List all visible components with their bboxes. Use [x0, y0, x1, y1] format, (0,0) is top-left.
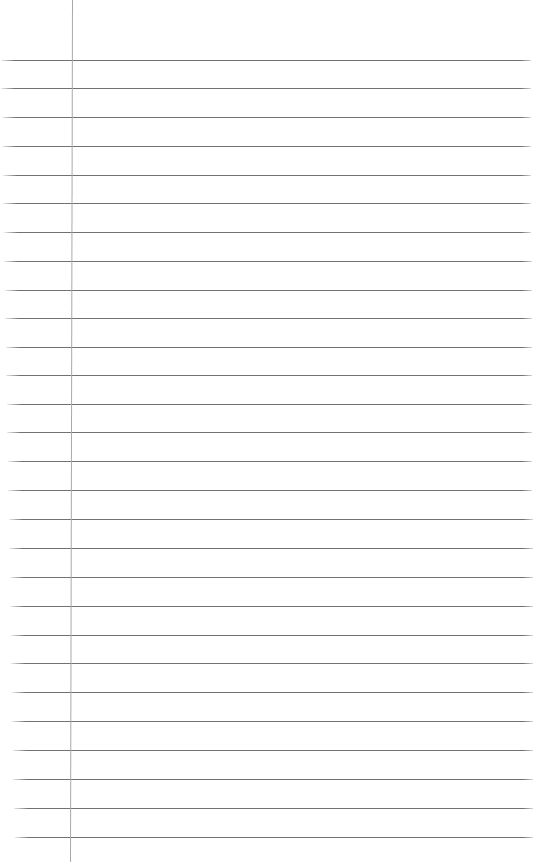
- rule-lines-layer: [0, 0, 536, 866]
- rule-line: [9, 519, 533, 520]
- rule-line: [9, 548, 533, 549]
- rule-line: [13, 779, 533, 780]
- rule-line: [3, 203, 531, 204]
- rule-line: [7, 432, 532, 433]
- rule-line: [5, 290, 532, 291]
- rule-line: [12, 721, 533, 722]
- rule-line: [14, 808, 533, 809]
- rule-line: [2, 146, 531, 147]
- rule-line: [4, 232, 531, 233]
- notebook-page: [0, 0, 536, 866]
- rule-line: [6, 347, 532, 348]
- rule-line: [10, 606, 533, 607]
- rule-line: [5, 318, 532, 319]
- rule-line: [1, 88, 531, 89]
- rule-line: [2, 117, 531, 118]
- rule-line: [4, 261, 532, 262]
- rule-line: [1, 60, 531, 61]
- rule-line: [12, 692, 533, 693]
- rule-line: [15, 837, 533, 838]
- rule-line: [13, 750, 533, 751]
- rule-line: [10, 577, 533, 578]
- rule-line: [7, 404, 532, 405]
- rule-line: [6, 375, 532, 376]
- rule-line: [11, 635, 533, 636]
- rule-line: [11, 663, 533, 664]
- rule-line: [8, 490, 532, 491]
- rule-line: [3, 175, 531, 176]
- rule-line: [8, 461, 532, 462]
